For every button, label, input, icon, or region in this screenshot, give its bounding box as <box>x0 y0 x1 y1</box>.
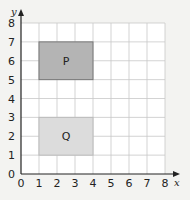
x-tick-label: 5 <box>108 177 115 190</box>
x-tick-label: 8 <box>162 177 169 190</box>
y-axis-arrow-icon <box>18 9 24 16</box>
x-tick-label: 1 <box>36 177 43 190</box>
y-tick-label: 7 <box>8 36 15 49</box>
x-tick-label: 3 <box>72 177 79 190</box>
shape-label-p: P <box>63 55 70 68</box>
y-tick-label: 8 <box>8 17 15 30</box>
x-tick-label: 0 <box>18 177 25 190</box>
x-tick-label: 7 <box>144 177 151 190</box>
y-tick-label: 4 <box>8 93 15 106</box>
y-axis-label: y <box>10 6 17 17</box>
y-tick-label: 0 <box>8 168 15 181</box>
y-tick-label: 1 <box>8 149 15 162</box>
x-axis-label: x <box>174 177 180 188</box>
x-tick-label: 4 <box>90 177 97 190</box>
y-tick-label: 2 <box>8 130 15 143</box>
y-tick-label: 3 <box>8 111 15 124</box>
shape-label-q: Q <box>62 130 71 143</box>
x-tick-label: 6 <box>126 177 133 190</box>
y-tick-label: 5 <box>8 74 15 87</box>
coordinate-grid-chart: PQ 012345678012345678 x y <box>0 0 190 200</box>
x-tick-label: 2 <box>54 177 61 190</box>
y-tick-label: 6 <box>8 55 15 68</box>
